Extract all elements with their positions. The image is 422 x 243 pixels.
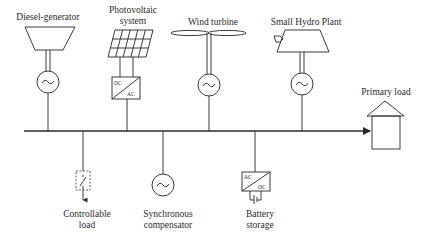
switch-icon [76, 171, 90, 190]
synchronous-compensator-label-line2: compensator [144, 220, 193, 230]
battery-storage: AC DC Battery storage [242, 131, 274, 230]
pv-label-line2: system [120, 16, 147, 26]
dc-ac-converter-icon: DC AC [112, 77, 140, 99]
battery-storage-label-line2: storage [246, 220, 273, 230]
ac-dc-converter-icon: AC DC [242, 172, 270, 191]
photovoltaic-system: Photovoltaic system DC AC [108, 5, 157, 131]
battery-storage-label-line1: Battery [246, 209, 274, 219]
primary-load: Primary load [361, 87, 411, 149]
diesel-generator: Diesel-generator [16, 12, 80, 131]
house-icon [367, 101, 404, 149]
pv-label-line1: Photovoltaic [109, 5, 157, 15]
wind-turbine-label: Wind turbine [188, 17, 238, 27]
battery-icon [250, 191, 261, 204]
diesel-generator-label: Diesel-generator [16, 12, 80, 22]
synchronous-compensator-label-line1: Synchronous [143, 209, 193, 219]
wind-turbine-icon [171, 30, 246, 35]
controllable-load-label-line1: Controllable [63, 209, 111, 219]
wind-turbine: Wind turbine [171, 17, 246, 131]
svg-text:DC: DC [258, 184, 266, 190]
small-hydro-plant: Small Hydro Plant [271, 17, 342, 131]
svg-text:DC: DC [114, 80, 122, 86]
controllable-load-label-line2: load [79, 220, 96, 230]
svg-text:AC: AC [244, 174, 252, 180]
svg-text:AC: AC [127, 91, 135, 97]
primary-load-label: Primary load [361, 87, 411, 97]
diesel-engine-icon [25, 27, 75, 50]
controllable-load: Controllable load [63, 131, 111, 230]
microgrid-diagram: Diesel-generator Photovoltaic system DC … [0, 0, 422, 243]
hydro-label: Small Hydro Plant [271, 17, 342, 27]
hydro-turbine-icon [274, 30, 329, 52]
solar-panel-icon [108, 30, 153, 57]
synchronous-compensator: Synchronous compensator [143, 131, 193, 230]
